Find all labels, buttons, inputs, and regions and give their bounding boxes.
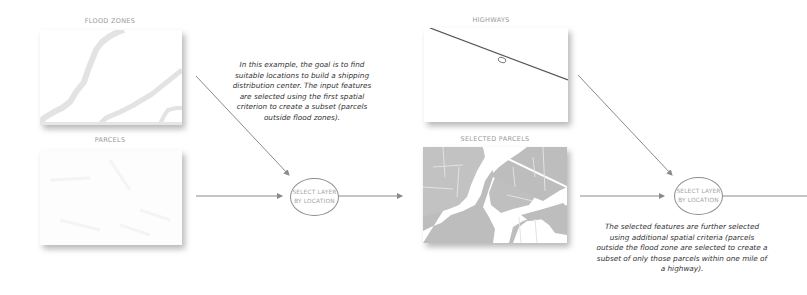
description-first: In this example, the goal is to find sui…: [228, 60, 376, 124]
selected-parcels-label: SELECTED PARCELS: [460, 135, 530, 143]
select-layer-by-location-node-1[interactable]: SELECT LAYER BY LOCATION: [290, 178, 339, 216]
parcels-image: [40, 150, 182, 245]
node-1-line1: SELECT LAYER: [292, 188, 336, 197]
flood-zones-image: [40, 30, 182, 125]
select-layer-by-location-node-2[interactable]: SELECT LAYER BY LOCATION: [674, 177, 723, 215]
flood-zones-label: FLOOD ZONES: [80, 17, 140, 25]
node-2-line2: BY LOCATION: [678, 196, 719, 205]
node-2-line1: SELECT LAYER: [676, 187, 720, 196]
description-second: The selected features are further select…: [596, 222, 768, 275]
node-1-line2: BY LOCATION: [294, 197, 335, 206]
parcels-label: PARCELS: [90, 136, 130, 144]
highways-image: [424, 28, 568, 122]
selected-parcels-map: [423, 147, 567, 243]
parcels-map: [40, 150, 182, 245]
highways-label: HIGHWAYS: [466, 16, 516, 24]
highways-map: [424, 28, 568, 122]
flood-zones-map: [40, 30, 182, 125]
selected-parcels-image: [423, 147, 567, 243]
